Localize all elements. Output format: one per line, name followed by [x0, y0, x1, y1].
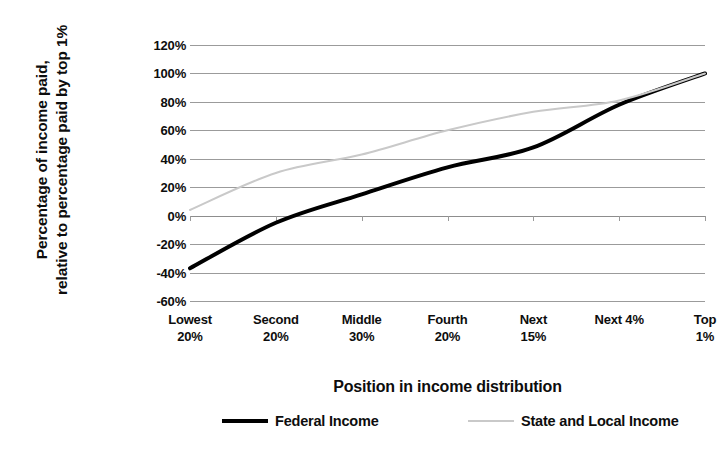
plot-area	[190, 45, 705, 301]
series-line-federal-income	[190, 73, 705, 268]
y-axis-title: Percentage of income paid, relative to p…	[32, 10, 72, 310]
y-axis-tick-label: 80%	[120, 94, 186, 109]
y-axis-tick-label: 20%	[120, 180, 186, 195]
gridline	[190, 301, 705, 302]
x-axis-tick-mark	[705, 216, 706, 221]
y-axis-tick-label: 40%	[120, 151, 186, 166]
y-axis-tick-label: -20%	[120, 237, 186, 252]
x-axis-category-label: Fourth 20%	[428, 311, 468, 345]
x-axis-title: Position in income distribution	[190, 378, 705, 396]
legend-label-state-and-local-income: State and Local Income	[521, 413, 679, 429]
series-line-state-and-local-income	[190, 73, 705, 210]
x-axis-category-label: Top 1%	[694, 311, 716, 345]
legend-item-federal-income: Federal Income	[222, 408, 379, 434]
y-axis-tick-label: 0%	[120, 208, 186, 223]
legend-label-federal-income: Federal Income	[275, 413, 379, 429]
x-axis-category-label: Next 15%	[520, 311, 547, 345]
x-axis-category-label: Next 4%	[595, 311, 644, 328]
x-axis-category-labels: Lowest 20%Second 20%Middle 30%Fourth 20%…	[190, 311, 705, 363]
y-axis-tick-labels: 120%100%80%60%40%20%0%-20%-40%-60%	[120, 36, 186, 311]
chart-figure: Percentage of income paid, relative to p…	[0, 0, 723, 460]
x-axis-category-label: Second 20%	[253, 311, 299, 345]
x-axis-category-label: Lowest 20%	[168, 311, 212, 345]
x-axis-category-label: Middle 30%	[342, 311, 382, 345]
y-axis-tick-label: -60%	[120, 294, 186, 309]
thick-black-line-swatch-icon	[222, 419, 268, 423]
legend-item-state-and-local-income: State and Local Income	[468, 408, 679, 434]
y-axis-tick-label: 60%	[120, 123, 186, 138]
y-axis-tick-label: 100%	[120, 66, 186, 81]
chart-legend: Federal Income State and Local Income	[190, 408, 705, 442]
y-axis-tick-label: -40%	[120, 265, 186, 280]
y-axis-title-container: Percentage of income paid, relative to p…	[0, 0, 95, 330]
y-axis-tick-label: 120%	[120, 38, 186, 53]
thin-gray-line-swatch-icon	[468, 420, 514, 422]
series-lines	[190, 45, 705, 301]
